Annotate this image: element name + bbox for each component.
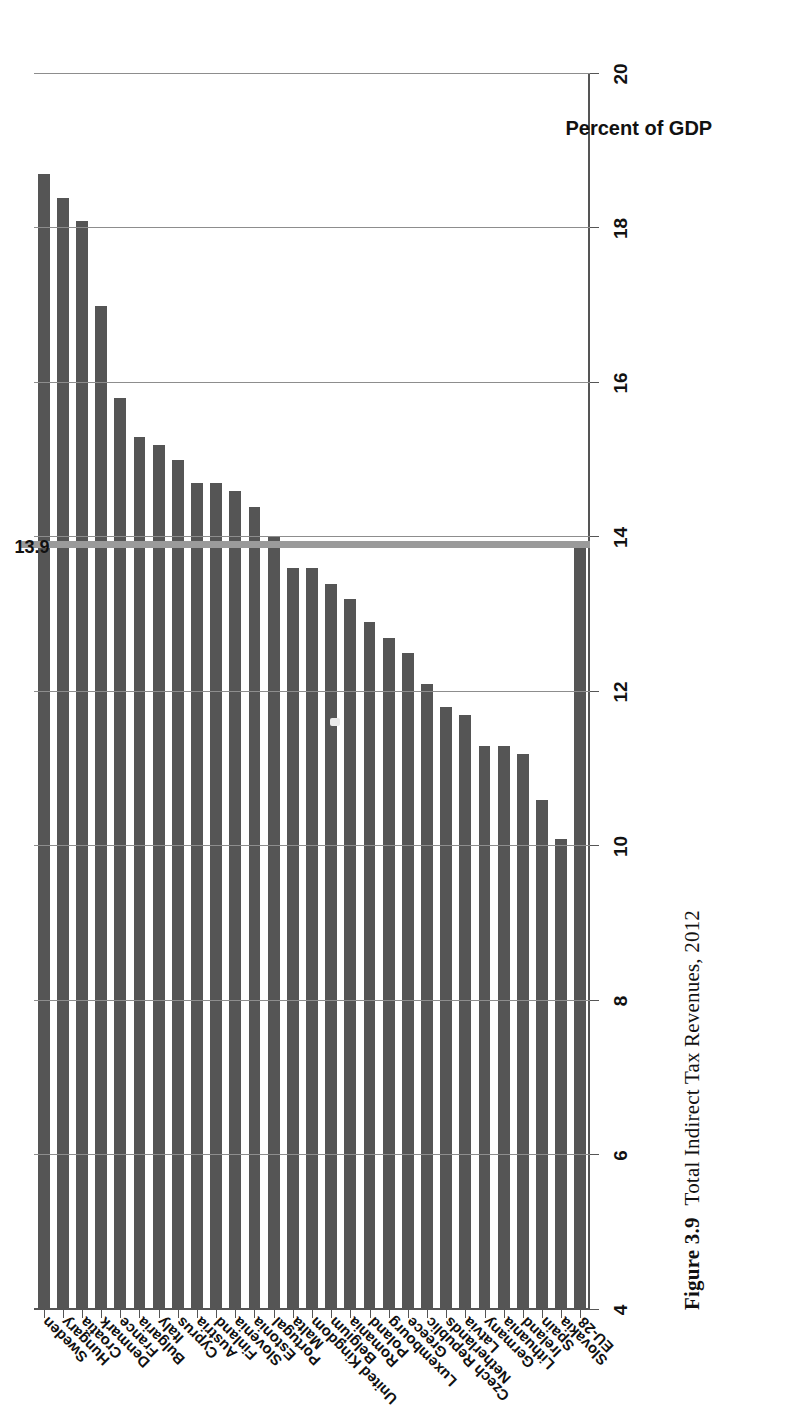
axis-tick-label-16: 16 [610, 361, 632, 405]
bar-row [517, 74, 529, 1310]
bar-row [306, 74, 318, 1310]
category-tick [139, 1310, 140, 1318]
axis-tick-label-20: 20 [610, 52, 632, 96]
category-tick [523, 1310, 524, 1318]
bar-row [287, 74, 299, 1310]
axis-tick-6 [590, 1155, 599, 1156]
category-tick [254, 1310, 255, 1318]
bars-layer [34, 74, 590, 1310]
bar-spain[interactable] [536, 800, 548, 1310]
bar-row [249, 74, 261, 1310]
bar-ireland[interactable] [517, 754, 529, 1310]
bar-latvia[interactable] [459, 715, 471, 1310]
bar-eu-28[interactable] [574, 545, 586, 1310]
axis-tick-label-8: 8 [610, 979, 632, 1023]
category-tick [427, 1310, 428, 1318]
bar-bulgaria[interactable] [134, 437, 146, 1310]
bar-row [268, 74, 280, 1310]
bar-cyprus[interactable] [172, 460, 184, 1310]
bar-row [364, 74, 376, 1310]
category-tick [235, 1310, 236, 1318]
gridline-6 [34, 1155, 590, 1156]
bar-row [498, 74, 510, 1310]
bar-greece[interactable] [402, 653, 414, 1310]
category-tick [350, 1310, 351, 1318]
gridline-12 [34, 691, 590, 692]
axis-tick-label-6: 6 [610, 1134, 632, 1178]
category-tick [408, 1310, 409, 1318]
category-tick [580, 1310, 581, 1318]
axis-tick-18 [590, 228, 599, 229]
gridline-18 [34, 228, 590, 229]
category-tick [216, 1310, 217, 1318]
bar-row [76, 74, 88, 1310]
axis-tick-label-10: 10 [610, 825, 632, 869]
category-tick [446, 1310, 447, 1318]
figure-container: 201816141210864SwedenHungaryCroatiaDenma… [0, 0, 788, 1406]
gridline-14 [34, 537, 590, 538]
category-tick [293, 1310, 294, 1318]
category-tick [465, 1310, 466, 1318]
bar-france[interactable] [114, 398, 126, 1310]
eu28-reference-line [20, 541, 590, 548]
bar-italy[interactable] [153, 445, 165, 1310]
bar-row [536, 74, 548, 1310]
bar-luxembourg[interactable] [383, 638, 395, 1310]
category-tick [159, 1310, 160, 1318]
bar-slovenia[interactable] [229, 491, 241, 1310]
bar-row [440, 74, 452, 1310]
axis-tick-14 [590, 537, 599, 538]
category-tick [44, 1310, 45, 1318]
bar-row [459, 74, 471, 1310]
category-tick [504, 1310, 505, 1318]
gridline-8 [34, 1000, 590, 1001]
axis-tick-4 [590, 1309, 599, 1310]
figure-caption: Figure 3.9 Total Indirect Tax Revenues, … [672, 0, 712, 1406]
bar-poland[interactable] [364, 622, 376, 1310]
axis-tick-label-14: 14 [610, 516, 632, 560]
category-tick [331, 1310, 332, 1318]
bar-lithuania[interactable] [498, 746, 510, 1310]
axis-tick-label-12: 12 [610, 670, 632, 714]
bar-czech-republic[interactable] [421, 684, 433, 1310]
category-tick [82, 1310, 83, 1318]
bar-croatia[interactable] [76, 221, 88, 1310]
category-tick [485, 1310, 486, 1318]
bar-malta[interactable] [287, 568, 299, 1310]
category-tick [63, 1310, 64, 1318]
category-tick [389, 1310, 390, 1318]
category-tick [178, 1310, 179, 1318]
bar-denmark[interactable] [95, 306, 107, 1310]
bar-row [344, 74, 356, 1310]
bar-finland[interactable] [210, 483, 222, 1310]
bar-estonia[interactable] [249, 507, 261, 1310]
bar-hungary[interactable] [57, 198, 69, 1310]
bar-row [325, 74, 337, 1310]
bar-sweden[interactable] [38, 174, 50, 1310]
category-tick [120, 1310, 121, 1318]
bar-united-kingdom[interactable] [306, 568, 318, 1310]
category-tick [197, 1310, 198, 1318]
category-tick [561, 1310, 562, 1318]
category-tick [542, 1310, 543, 1318]
bar-portugal[interactable] [268, 538, 280, 1311]
bar-row [57, 74, 69, 1310]
bar-belgium[interactable] [325, 584, 337, 1310]
bar-row [383, 74, 395, 1310]
bar-romania[interactable] [344, 599, 356, 1310]
figure-caption-text: Total Indirect Tax Revenues, 2012 [680, 910, 705, 1205]
bar-row [229, 74, 241, 1310]
bar-row [95, 74, 107, 1310]
bar-austria[interactable] [191, 483, 203, 1310]
bar-row [134, 74, 146, 1310]
bar-netherlands[interactable] [440, 707, 452, 1310]
category-tick [312, 1310, 313, 1318]
bar-chart-plot-area: 201816141210864SwedenHungaryCroatiaDenma… [34, 74, 590, 1310]
bar-row [153, 74, 165, 1310]
bar-slovakia[interactable] [555, 839, 567, 1310]
figure-number: Figure 3.9 [680, 1217, 705, 1310]
bar-row [172, 74, 184, 1310]
bar-germany[interactable] [479, 746, 491, 1310]
rotated-page-stage: 201816141210864SwedenHungaryCroatiaDenma… [0, 0, 788, 1406]
category-tick [274, 1310, 275, 1318]
